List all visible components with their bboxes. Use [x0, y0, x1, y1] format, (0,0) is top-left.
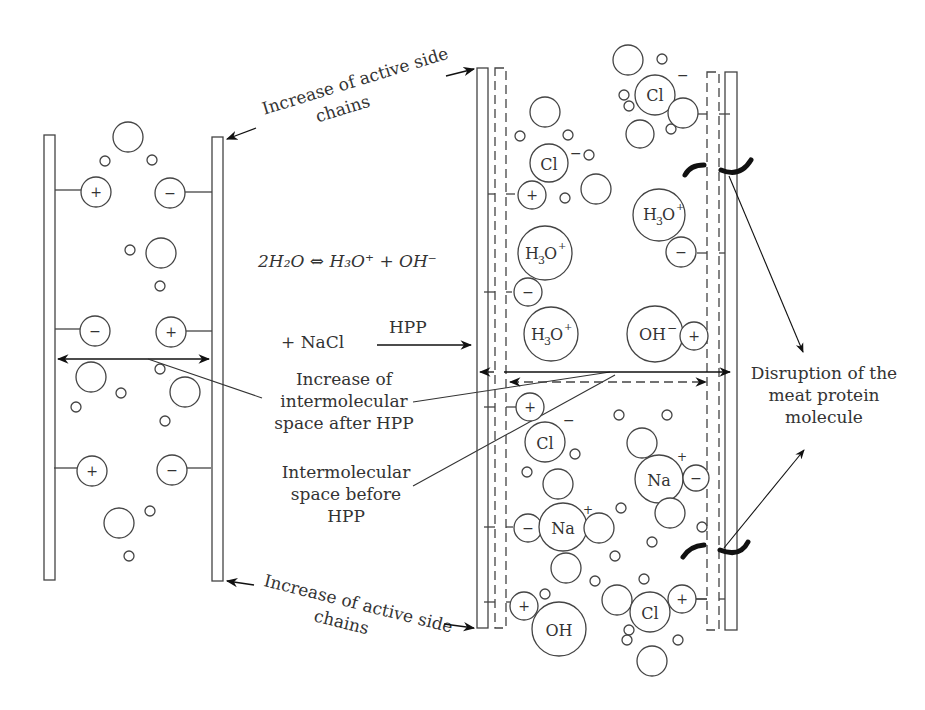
svg-text:+: +: [558, 240, 566, 251]
water-molecule-icon: [155, 364, 200, 426]
hydroxide-ion: OH: [532, 602, 586, 656]
leader-line: [413, 372, 610, 402]
svg-text:−: −: [166, 462, 178, 478]
water-molecule-icon: [515, 97, 573, 141]
left-protein-strand: [44, 135, 55, 580]
svg-text:+: +: [165, 324, 177, 340]
chloride-ion: Cl: [630, 592, 670, 632]
chloride-ion: Cl −: [530, 144, 582, 182]
water-molecule-icon: [668, 98, 698, 128]
svg-text:H: H: [525, 244, 539, 263]
svg-text:+: +: [518, 598, 530, 614]
svg-text:+: +: [564, 321, 572, 332]
svg-text:−: −: [690, 470, 702, 486]
leader-line: [413, 375, 615, 486]
svg-text:space before: space before: [291, 484, 401, 504]
svg-text:+: +: [688, 328, 700, 344]
pointer-arrow: [724, 450, 804, 548]
svg-text:H: H: [531, 325, 545, 344]
pointer-arrow: [446, 69, 474, 76]
svg-text:OH: OH: [545, 621, 572, 640]
svg-text:meat protein: meat protein: [768, 385, 879, 405]
svg-text:HPP: HPP: [327, 506, 365, 526]
water-molecule-icon: [614, 410, 672, 458]
leader-line: [148, 359, 262, 398]
diagram-canvas: + − − + + − Increase of active side chai…: [0, 0, 925, 710]
positive-charge-group: +: [156, 317, 212, 347]
svg-text:−: −: [164, 185, 176, 201]
positive-charge-group: +: [668, 585, 707, 613]
svg-text:−: −: [667, 321, 677, 335]
svg-text:−: −: [570, 145, 582, 161]
label-disruption: Disruption of the meat protein molecule: [751, 363, 897, 427]
equation-water-dissociation: 2H₂O ⇔ H₃O⁺ + OH⁻: [257, 251, 437, 271]
svg-text:Na: Na: [647, 471, 671, 490]
svg-text:+: +: [86, 463, 98, 479]
svg-text:space after HPP: space after HPP: [274, 413, 413, 433]
hydronium-ion: H 3 O +: [518, 226, 572, 280]
negative-charge-group: −: [157, 455, 211, 485]
label-increase-active-side-chains-top: Increase of active side chains: [259, 43, 457, 141]
svg-text:+: +: [677, 450, 687, 464]
negative-charge-group: −: [514, 514, 542, 542]
water-molecule-icon: [104, 506, 155, 561]
positive-charge-group: +: [510, 592, 538, 620]
water-molecule-icon: [125, 238, 176, 291]
water-molecule-icon: [540, 553, 600, 599]
svg-text:intermolecular: intermolecular: [280, 391, 408, 411]
label-nacl: + NaCl: [281, 332, 344, 352]
positive-charge-group: +: [518, 181, 546, 209]
svg-text:O: O: [544, 244, 557, 263]
svg-text:O: O: [550, 325, 563, 344]
svg-text:+: +: [524, 399, 536, 415]
negative-charge-group: −: [666, 237, 696, 267]
water-molecule-icon: [622, 635, 683, 676]
svg-text:Cl: Cl: [641, 604, 658, 623]
svg-text:Cl: Cl: [646, 86, 663, 105]
svg-text:Intermolecular: Intermolecular: [282, 462, 412, 482]
svg-text:Cl: Cl: [536, 434, 553, 453]
svg-text:H: H: [643, 205, 657, 224]
hydroxide-ion: OH −: [627, 306, 683, 362]
hydronium-ion: H 3 O +: [524, 307, 578, 361]
positive-charge-group: +: [55, 177, 111, 207]
water-molecule-icon: [71, 362, 126, 412]
positive-charge-group: +: [54, 456, 107, 486]
positive-charge-group: +: [680, 322, 708, 350]
svg-text:Increase of: Increase of: [296, 369, 394, 389]
svg-text:−: −: [563, 412, 575, 428]
disruption-break-mark-top: [685, 160, 751, 175]
label-increase-intermolecular-space: Increase of intermolecular space after H…: [274, 369, 413, 433]
svg-text:−: −: [522, 520, 534, 536]
svg-text:−: −: [89, 323, 101, 339]
svg-text:Disruption of the: Disruption of the: [751, 363, 897, 383]
left-protein-strand-expanded: [477, 68, 506, 628]
disruption-break-mark-bottom: [683, 542, 748, 557]
svg-text:O: O: [662, 205, 675, 224]
svg-text:+: +: [676, 201, 684, 212]
svg-text:OH: OH: [639, 325, 666, 344]
pointer-arrow: [729, 176, 803, 352]
negative-charge-group: −: [55, 316, 110, 346]
svg-text:−: −: [677, 67, 689, 83]
svg-text:molecule: molecule: [785, 407, 863, 427]
negative-charge-group: −: [683, 465, 709, 491]
svg-text:+: +: [526, 187, 538, 203]
negative-charge-group: −: [514, 278, 542, 306]
pointer-arrow: [227, 128, 256, 139]
svg-text:Na: Na: [551, 519, 575, 538]
label-intermolecular-space-before: Intermolecular space before HPP: [282, 462, 412, 526]
right-protein-strand: [212, 137, 223, 581]
hydronium-ion: H 3 O +: [633, 189, 685, 241]
pointer-arrow: [227, 581, 254, 585]
label-hpp: HPP: [389, 317, 427, 337]
water-molecule-icon: [647, 498, 707, 547]
svg-text:Cl: Cl: [540, 155, 557, 174]
svg-text:−: −: [675, 244, 687, 260]
positive-charge-group: +: [516, 393, 544, 421]
right-protein-strand-expanded: [707, 72, 737, 630]
negative-charge-group: −: [155, 178, 212, 208]
label-increase-active-side-chains-bottom: Increase of active side chains: [257, 570, 455, 658]
svg-text:+: +: [90, 184, 102, 200]
svg-text:+: +: [676, 591, 688, 607]
